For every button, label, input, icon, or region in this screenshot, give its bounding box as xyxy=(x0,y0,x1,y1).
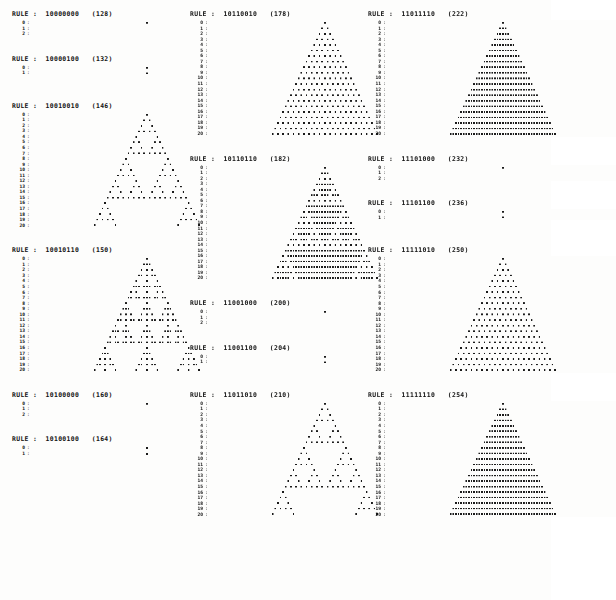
block-spacer xyxy=(364,517,616,526)
row-separator: : xyxy=(383,176,386,182)
block-spacer xyxy=(364,373,616,391)
rule-header-250: RULE : 11111010 (250) xyxy=(368,246,616,254)
row-number: 20 xyxy=(8,367,25,373)
automaton-canvas xyxy=(387,165,616,182)
column-left: RULE : 10000000 (128)012:::RULE : 100001… xyxy=(8,10,186,466)
rule-header-254: RULE : 11111110 (254) xyxy=(368,391,616,399)
rule-body-222: 01234567891011121314151617181920::::::::… xyxy=(364,20,616,137)
row-number-gutter: 01234567891011121314151617181920 xyxy=(186,20,204,136)
column-right: RULE : 11011110 (222)0123456789101112131… xyxy=(364,10,542,526)
row-separator: : xyxy=(27,70,30,76)
row-number: 20 xyxy=(364,131,381,137)
column-middle: RULE : 10110010 (178)0123456789101112131… xyxy=(186,10,364,526)
row-number: 2 xyxy=(364,176,381,182)
rule-block-254: RULE : 11111110 (254)0123456789101112131… xyxy=(364,391,616,527)
rule-header-232: RULE : 11101000 (232) xyxy=(368,155,616,163)
automaton-grid-254 xyxy=(387,401,616,518)
row-number: 2 xyxy=(186,320,203,326)
row-separator: : xyxy=(27,31,30,37)
row-separator: : xyxy=(383,512,386,518)
row-separator: : xyxy=(27,451,30,457)
row-number: 20 xyxy=(8,223,25,229)
row-separator: : xyxy=(27,412,30,418)
row-number-gutter: 01 xyxy=(364,209,382,220)
automaton-canvas xyxy=(387,209,616,220)
automaton-grid-236 xyxy=(387,209,616,220)
row-separator: : xyxy=(205,320,208,326)
row-number-gutter: 01234567891011121314151617181920 xyxy=(186,401,204,517)
rule-block-222: RULE : 11011110 (222)0123456789101112131… xyxy=(364,10,616,155)
row-separator: : xyxy=(205,359,208,365)
rule-block-236: RULE : 11101100 (236)01:: xyxy=(364,199,616,246)
row-number: 20 xyxy=(186,131,203,137)
row-number-gutter: 012 xyxy=(8,401,26,418)
block-spacer xyxy=(364,181,616,199)
block-spacer xyxy=(364,137,616,155)
row-separator: : xyxy=(27,223,30,229)
automaton-grid-250 xyxy=(387,256,616,373)
row-number-gutter: 01234567891011121314151617181920 xyxy=(364,256,382,372)
automaton-canvas xyxy=(387,20,616,137)
row-number-gutter: 01234567891011121314151617181920 xyxy=(364,401,382,517)
rule-body-236: 01:: xyxy=(364,209,616,220)
row-separator: : xyxy=(383,215,386,221)
row-number: 20 xyxy=(364,367,381,373)
row-number-gutter: 01 xyxy=(8,445,26,456)
row-number-gutter: 01234567891011121314151617181920 xyxy=(8,112,26,228)
row-number: 1 xyxy=(186,359,203,365)
row-number-gutter: 012 xyxy=(364,165,382,182)
row-separator: : xyxy=(383,367,386,373)
rule-body-254: 01234567891011121314151617181920::::::::… xyxy=(364,401,616,518)
rule-block-232: RULE : 11101000 (232)012::: xyxy=(364,155,616,200)
row-number-gutter: 01 xyxy=(186,354,204,365)
automaton-canvas xyxy=(387,401,616,518)
row-number: 2 xyxy=(8,412,25,418)
row-number: 20 xyxy=(364,512,381,518)
row-separator: : xyxy=(205,512,208,518)
block-spacer xyxy=(364,220,616,246)
row-number-gutter: 01234567891011121314151617181920 xyxy=(364,20,382,136)
row-number-gutter: 01 xyxy=(8,65,26,76)
row-number-gutter: 012 xyxy=(186,309,204,326)
rule-header-222: RULE : 11011110 (222) xyxy=(368,10,616,18)
rule-body-232: 012::: xyxy=(364,165,616,182)
row-separator: : xyxy=(205,131,208,137)
row-number-gutter: 01234567891011121314151617181920 xyxy=(8,256,26,372)
rule-columns-container: RULE : 10000000 (128)012:::RULE : 100001… xyxy=(8,10,543,595)
rule-block-250: RULE : 11111010 (250)0123456789101112131… xyxy=(364,246,616,391)
row-number: 1 xyxy=(8,451,25,457)
row-number: 20 xyxy=(186,275,203,281)
row-separator: : xyxy=(27,367,30,373)
rule-header-236: RULE : 11101100 (236) xyxy=(368,199,616,207)
row-number-gutter: 012 xyxy=(8,20,26,37)
row-separator: : xyxy=(383,131,386,137)
row-number: 2 xyxy=(8,31,25,37)
automaton-canvas xyxy=(387,256,616,373)
rule-body-250: 01234567891011121314151617181920::::::::… xyxy=(364,256,616,373)
row-number-gutter: 01234567891011121314151617181920 xyxy=(186,165,204,281)
row-separator: : xyxy=(205,275,208,281)
row-number: 20 xyxy=(186,512,203,518)
automaton-grid-232 xyxy=(387,165,616,182)
row-number: 1 xyxy=(8,70,25,76)
row-number: 1 xyxy=(364,215,381,221)
automaton-grid-222 xyxy=(387,20,616,137)
